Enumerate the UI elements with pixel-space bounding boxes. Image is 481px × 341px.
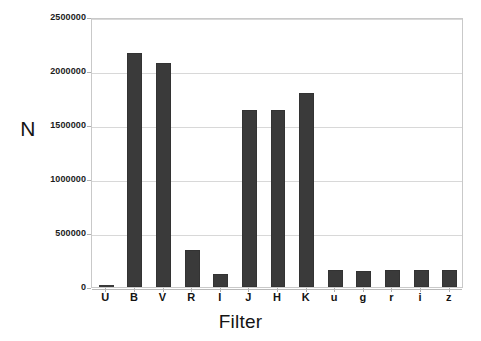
bar xyxy=(185,250,200,287)
x-tick-label: z xyxy=(429,292,469,303)
x-axis-title: Filter xyxy=(0,312,481,331)
bar xyxy=(385,270,400,287)
y-tick-label: 2500000 xyxy=(6,13,86,22)
bar xyxy=(127,53,142,287)
y-tick-label: 500000 xyxy=(6,229,86,238)
bar-chart-figure: N Filter 0500000100000015000002000000250… xyxy=(0,0,481,341)
gridline xyxy=(92,289,462,290)
y-tick-label: 0 xyxy=(6,283,86,292)
y-tick-label: 2000000 xyxy=(6,67,86,76)
gridline xyxy=(92,19,462,20)
plot-inner xyxy=(92,19,462,287)
y-tick-label: 1500000 xyxy=(6,121,86,130)
bar xyxy=(299,93,314,287)
bar xyxy=(414,270,429,287)
bar xyxy=(328,270,343,287)
gridline xyxy=(92,73,462,74)
bar xyxy=(442,270,457,287)
y-tick-label: 1000000 xyxy=(6,175,86,184)
bar xyxy=(356,271,371,287)
bar xyxy=(156,63,171,287)
bar xyxy=(213,274,228,287)
bar xyxy=(99,285,114,288)
plot-area xyxy=(91,18,463,288)
bar xyxy=(242,110,257,287)
bar xyxy=(271,110,286,287)
